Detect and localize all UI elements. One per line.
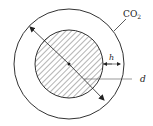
label-h: h — [109, 53, 114, 62]
cross-section-diagram: CO2 h d — [0, 0, 153, 126]
leader-line-co2 — [114, 19, 126, 31]
label-d: d — [140, 74, 146, 84]
label-co2: CO2 — [123, 9, 141, 20]
